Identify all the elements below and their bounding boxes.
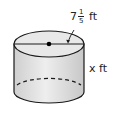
center-point bbox=[47, 42, 52, 47]
diameter-label: 715 ft bbox=[70, 8, 97, 25]
height-label: x ft bbox=[89, 63, 107, 74]
